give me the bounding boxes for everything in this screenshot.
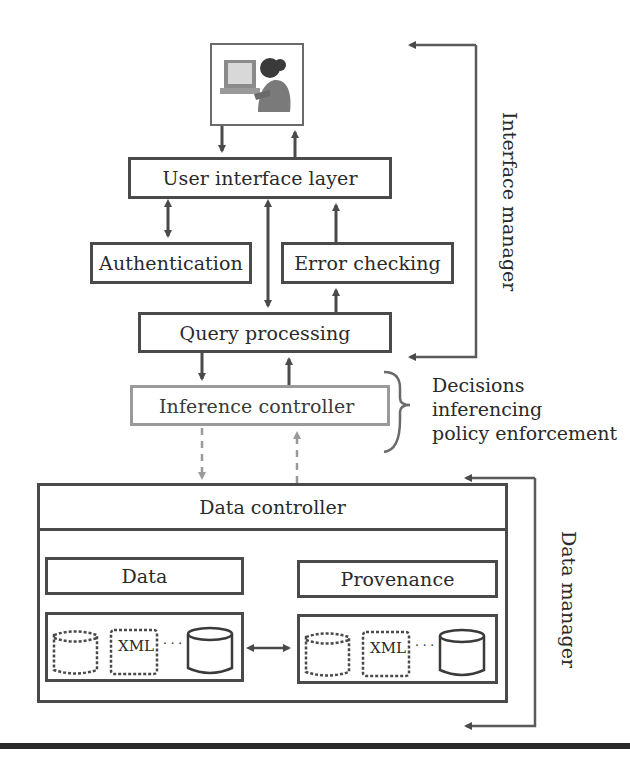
user-interface-layer-label: User interface layer <box>162 167 357 189</box>
error-checking-label: Error checking <box>294 252 441 274</box>
error-checking-box: Error checking <box>281 242 454 284</box>
data-box: Data <box>45 557 244 595</box>
user-interface-layer-box: User interface layer <box>128 157 392 199</box>
inference-controller-label: Inference controller <box>159 395 354 417</box>
annotation-policy-enforcement: policy enforcement <box>432 421 617 445</box>
user-at-computer-icon <box>218 54 296 116</box>
data-manager-label: Data manager <box>558 531 580 668</box>
provenance-label: Provenance <box>341 568 455 590</box>
bottom-rule <box>0 743 630 749</box>
annotation-inferencing: inferencing <box>432 397 617 421</box>
data-ellipsis: · · · <box>163 637 182 651</box>
query-processing-label: Query processing <box>179 322 350 344</box>
inference-brace-annotation: Decisions inferencing policy enforcement <box>432 373 617 445</box>
inference-controller-box: Inference controller <box>130 385 390 426</box>
user-icon-box <box>210 43 304 126</box>
data-controller-header: Data controller <box>40 486 505 531</box>
data-xml-label: XML <box>118 637 154 655</box>
provenance-ellipsis: · · · <box>415 639 434 653</box>
query-processing-box: Query processing <box>138 312 392 353</box>
authentication-box: Authentication <box>90 242 252 284</box>
provenance-xml-label: XML <box>370 639 406 657</box>
interface-manager-bracket <box>410 45 476 357</box>
interface-manager-label: Interface manager <box>499 112 521 291</box>
provenance-box: Provenance <box>297 560 498 598</box>
data-controller-label: Data controller <box>199 496 346 518</box>
data-label: Data <box>122 565 168 587</box>
authentication-label: Authentication <box>99 252 243 274</box>
annotation-decisions: Decisions <box>432 373 617 397</box>
